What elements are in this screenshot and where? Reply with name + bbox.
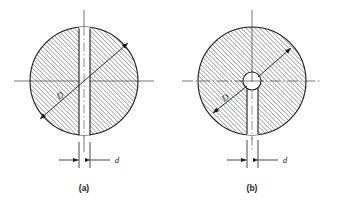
panel-a-slot-group	[79, 24, 90, 140]
engineering-drawing-canvas: D d (a)	[0, 0, 343, 204]
panel-a: D d (a)	[14, 10, 154, 193]
panel-a-caption: (a)	[79, 183, 90, 193]
panel-b-width-label: d	[283, 155, 288, 165]
panel-a-width-label: d	[115, 155, 120, 165]
panel-a-slot-void	[79, 24, 90, 140]
panel-b-caption: (b)	[247, 183, 258, 193]
panel-b: D d (b)	[182, 10, 322, 193]
figure-container: D d (a)	[0, 0, 343, 204]
